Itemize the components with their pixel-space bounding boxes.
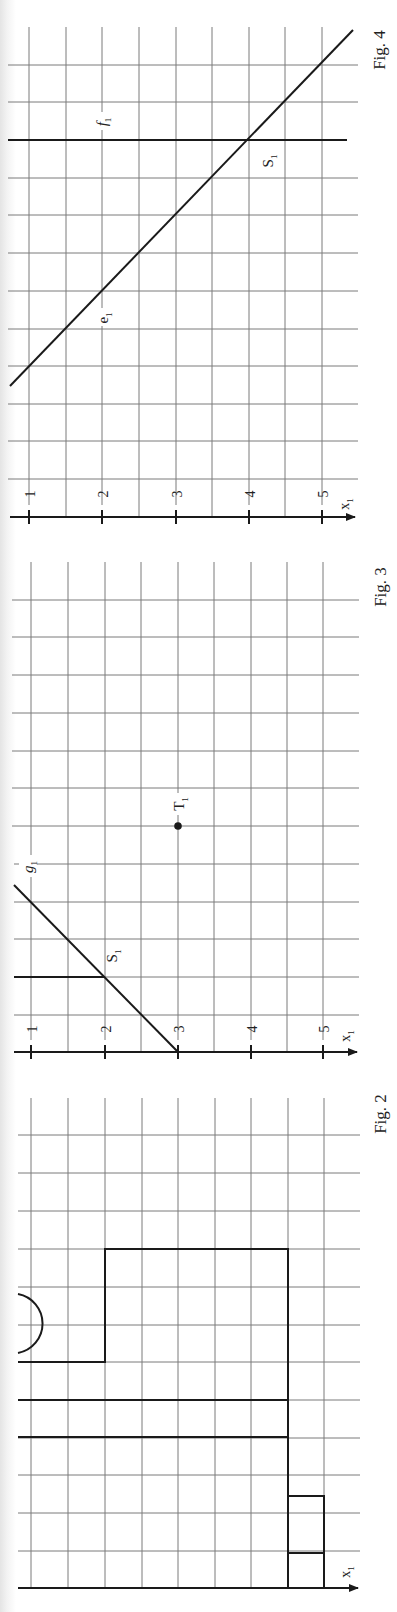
figure-4: 1 2 3 4 5 x1 f1 S1 e1	[8, 27, 389, 524]
fig3-caption: Fig. 3	[371, 567, 390, 607]
svg-text:x1: x1	[337, 498, 355, 510]
fig4-tick-3: 3	[170, 491, 185, 498]
svg-text:x1: x1	[338, 1566, 356, 1578]
fig2-caption: Fig. 2	[371, 1094, 390, 1134]
label-s1-fig4: S1	[260, 155, 279, 168]
fig4-axis-label: x1	[337, 498, 355, 510]
figure-2: x1 Fig. 2	[18, 1094, 390, 1588]
figures-canvas: 1 2 3 4 5 x1 f1 S1 e1	[0, 0, 397, 1612]
fig3-tick-1: 1	[25, 1026, 40, 1033]
point-t1	[174, 822, 182, 830]
fig4-grid	[8, 27, 358, 517]
line-e1	[10, 30, 353, 386]
fig2-grid	[18, 1098, 360, 1588]
arc-shape	[18, 1294, 43, 1353]
small-box-outline	[288, 1496, 324, 1588]
fig3-tick-3: 3	[172, 1026, 187, 1033]
fig4-tick-4: 4	[243, 491, 258, 498]
svg-text:S1: S1	[104, 950, 123, 963]
label-s1-fig3: S1	[104, 950, 123, 963]
svg-text:x1: x1	[338, 1030, 356, 1042]
figure-3: 1 2 3 4 5 x1 T1 g1 S1 Fig	[12, 562, 390, 1059]
step-shape	[18, 1249, 288, 1588]
fig4-caption: Fig. 4	[370, 30, 389, 70]
fig3-tick-labels: 1 2 3 4 5	[25, 1026, 332, 1033]
fig3-axis-label: x1	[338, 1030, 356, 1042]
fig3-tick-4: 4	[245, 1026, 260, 1033]
fig2-axis-label: x1	[338, 1566, 356, 1578]
textbook-page: 1 2 3 4 5 x1 f1 S1 e1	[0, 0, 397, 1612]
fig4-tick-5: 5	[316, 491, 331, 498]
fig4-tick-2: 2	[96, 491, 111, 498]
fig3-tick-2: 2	[99, 1026, 114, 1033]
fig4-tick-1: 1	[23, 491, 38, 498]
svg-text:S1: S1	[260, 155, 279, 168]
fig3-tick-5: 5	[317, 1026, 332, 1033]
